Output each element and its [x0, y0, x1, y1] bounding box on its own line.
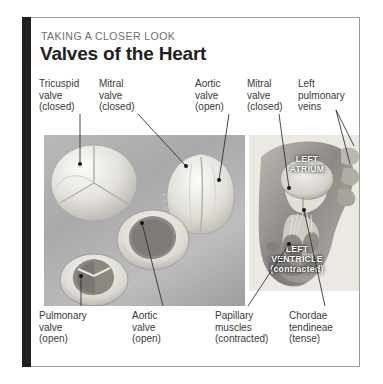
overlay-left-atrium: LEFT ATRIUM [277, 155, 337, 175]
heart-section-photo: LEFT ATRIUM LEFT VENTRICLE (contracted) [249, 135, 360, 291]
label-aortic-valve-top: Aortic valve (open) [195, 78, 224, 113]
label-left-pulmonary-veins: Left pulmonary veins [298, 78, 345, 113]
accent-bar [22, 17, 31, 367]
page-title: Valves of the Heart [40, 43, 206, 65]
label-pulmonary-valve: Pulmonary valve (open) [39, 310, 87, 345]
overlay-left-ventricle: LEFT VENTRICLE (contracted) [257, 245, 337, 274]
eyebrow-text: TAKING A CLOSER LOOK [41, 30, 175, 42]
figure-card: TAKING A CLOSER LOOK Valves of the Heart… [22, 17, 360, 367]
label-chordae-tendineae: Chordae tendineae (tense) [289, 310, 333, 345]
label-tricuspid-valve: Tricuspid valve (closed) [39, 78, 79, 113]
label-mitral-valve-right: Mitral valve (closed) [247, 78, 283, 113]
label-papillary-muscles: Papillary muscles (contracted) [215, 310, 268, 345]
valve-specimens-photo [44, 135, 245, 306]
label-mitral-valve-top: Mitral valve (closed) [99, 78, 135, 113]
label-aortic-valve-bottom: Aortic valve (open) [132, 310, 161, 345]
